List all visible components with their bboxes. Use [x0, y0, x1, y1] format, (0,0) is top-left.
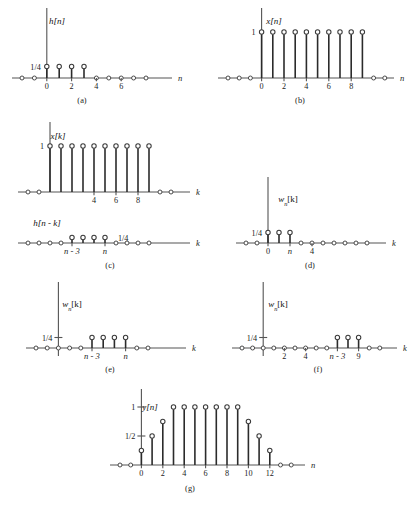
axis-variable-a: n [178, 73, 182, 83]
x-tick-label: 0 [45, 82, 49, 91]
x-tick-label: n - 3 [84, 351, 100, 361]
signal-label-b: x[n] [265, 16, 282, 26]
stem-marker [125, 144, 129, 148]
x-tick-label: 12 [266, 469, 274, 478]
zero-marker [125, 241, 129, 245]
panel-a: h[n]n1/40246(a) [12, 8, 182, 105]
zero-marker [45, 346, 49, 350]
zero-marker [272, 346, 276, 350]
stem-marker [335, 335, 339, 339]
x-tick-label: n [123, 351, 127, 361]
x-tick-label: 0 [139, 469, 143, 478]
zero-marker [343, 241, 347, 245]
x-tick-label: 0 [260, 82, 264, 91]
stem-marker [214, 405, 218, 409]
zero-marker [237, 76, 241, 80]
zero-marker [321, 241, 325, 245]
amplitude-label: 1/4 [42, 334, 52, 343]
x-tick-label: 2 [70, 82, 74, 91]
stem-marker [246, 419, 250, 423]
amplitude-label: 1/2 [125, 432, 135, 441]
stem-marker [48, 144, 52, 148]
zero-marker [136, 241, 140, 245]
panel-e: wn[k]k1/4n - 3n(e) [26, 282, 196, 374]
zero-marker [37, 241, 41, 245]
stem-marker [57, 64, 61, 68]
zero-marker [34, 346, 38, 350]
stem-marker [45, 64, 49, 68]
zero-marker [107, 76, 111, 80]
stem-marker [293, 30, 297, 34]
stem-marker [193, 405, 197, 409]
stem-marker [356, 335, 360, 339]
stem-marker [268, 448, 272, 452]
axis-variable-c2: k [196, 238, 200, 248]
zero-marker [240, 346, 244, 350]
amplitude-label: 1 [40, 142, 44, 151]
x-tick-label: 6 [114, 196, 118, 205]
zero-marker [354, 241, 358, 245]
x-tick-label: 6 [327, 82, 331, 91]
panel-caption-d: (d) [305, 261, 315, 270]
zero-marker [132, 76, 136, 80]
stem-marker [349, 30, 353, 34]
stem-marker [338, 30, 342, 34]
stem-marker [112, 335, 116, 339]
panel-caption-g: (g) [185, 484, 195, 493]
x-tick-label: n - 3 [330, 351, 346, 361]
stem-marker [182, 405, 186, 409]
zero-marker [244, 241, 248, 245]
zero-marker [279, 463, 283, 467]
stem-marker [161, 419, 165, 423]
stem-marker [92, 144, 96, 148]
zero-marker [372, 76, 376, 80]
zero-marker [26, 241, 30, 245]
zero-marker [378, 346, 382, 350]
panel-c2: h[n - k]k1/4n - 3n(c) [18, 218, 200, 270]
panel-b: x[n]n102468(b) [218, 8, 404, 105]
stem-marker [259, 30, 263, 34]
zero-marker [158, 190, 162, 194]
amplitude-label: 1/4 [252, 229, 262, 238]
zero-marker [325, 346, 329, 350]
zero-marker [48, 241, 52, 245]
zero-marker [144, 76, 148, 80]
zero-marker [118, 463, 122, 467]
zero-marker [147, 241, 151, 245]
signal-label-d: wn[k] [278, 194, 298, 207]
zero-marker [135, 346, 139, 350]
stem-marker [123, 335, 127, 339]
stem-marker [69, 64, 73, 68]
stem-marker [147, 144, 151, 148]
stem-marker [90, 335, 94, 339]
panel-caption-b: (b) [295, 96, 305, 105]
stem-marker [103, 144, 107, 148]
axis-variable-d: k [392, 238, 396, 248]
signal-label-e: wn[k] [62, 299, 82, 312]
amplitude-label: 1/4 [30, 63, 40, 72]
zero-marker [59, 241, 63, 245]
axis-variable-e: k [192, 343, 196, 353]
x-tick-label: 2 [282, 352, 286, 361]
stem-marker [236, 405, 240, 409]
stem-marker [282, 30, 286, 34]
stem-marker [346, 335, 350, 339]
zero-marker [299, 241, 303, 245]
panel-g: y[n]n11/2024681012(g) [110, 389, 315, 493]
zero-marker [226, 76, 230, 80]
zero-marker [169, 190, 173, 194]
stem-marker [70, 144, 74, 148]
stem-marker [81, 144, 85, 148]
zero-marker [261, 346, 265, 350]
zero-marker [114, 241, 118, 245]
stem-marker [225, 405, 229, 409]
zero-marker [20, 76, 24, 80]
stem-marker [277, 230, 281, 234]
stem-marker [271, 30, 275, 34]
x-tick-label: n - 3 [64, 246, 80, 256]
x-tick-label: 4 [310, 247, 314, 256]
signal-label-c1: x[k] [50, 131, 66, 141]
panel-f: wn[k]k1/424n - 39(f) [232, 282, 407, 374]
zero-marker [37, 190, 41, 194]
amplitude-label: 1/4 [247, 334, 257, 343]
